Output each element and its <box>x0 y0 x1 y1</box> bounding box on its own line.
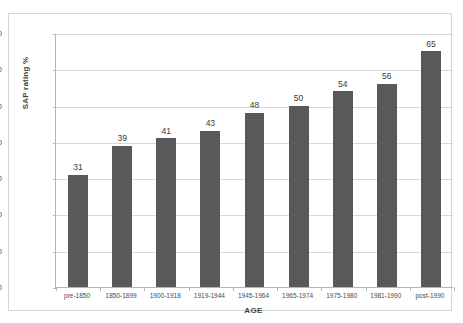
bar-slot[interactable]: 39 <box>100 34 144 287</box>
y-axis-tick-label: 10 <box>0 248 2 256</box>
x-axis-tick-mark <box>454 287 455 291</box>
bar-slot[interactable]: 54 <box>321 34 365 287</box>
bar-value-label: 41 <box>144 127 188 136</box>
x-axis-tick-mark <box>277 287 278 291</box>
x-axis-category-label: 1965-1974 <box>276 293 320 300</box>
bar-slot[interactable]: 48 <box>232 34 276 287</box>
x-axis-tick-mark <box>410 287 411 291</box>
bar-value-label: 50 <box>277 94 321 103</box>
x-axis-tick-mark <box>56 287 57 291</box>
bar-value-label: 56 <box>365 72 409 81</box>
bar-value-label: 39 <box>100 134 144 143</box>
x-axis-tick-mark <box>366 287 367 291</box>
x-axis-title: AGE <box>55 306 452 315</box>
y-axis-tick-label: 70 <box>0 30 2 38</box>
x-axis-tick-labels: pre-18501850-18991900-19181919-19441945-… <box>55 293 452 300</box>
x-axis-tick-mark <box>144 287 145 291</box>
bar-value-label: 65 <box>409 40 453 49</box>
bar-value-label: 43 <box>188 119 232 128</box>
bar-slot[interactable]: 65 <box>409 34 453 287</box>
bar-slot[interactable]: 31 <box>56 34 100 287</box>
bar-value-label: 48 <box>232 101 276 110</box>
x-axis-tick-mark <box>100 287 101 291</box>
bar-value-label: 31 <box>56 163 100 172</box>
bar-series: 313941434850545665 <box>56 34 453 287</box>
plot-area: 010203040506070 313941434850545665 <box>55 34 453 288</box>
bar-slot[interactable]: 41 <box>144 34 188 287</box>
x-axis-category-label: 1981-1990 <box>364 293 408 300</box>
x-axis-category-label: 1919-1944 <box>187 293 231 300</box>
x-axis-category-label: 1900-1918 <box>143 293 187 300</box>
bar-slot[interactable]: 50 <box>277 34 321 287</box>
bar[interactable] <box>333 91 353 287</box>
x-axis-tick-mark <box>189 287 190 291</box>
y-axis-tick-label: 20 <box>0 211 2 219</box>
x-axis-category-label: pre-1850 <box>55 293 99 300</box>
y-axis-title: SAP rating % <box>19 38 33 128</box>
y-axis-tick-label: 50 <box>0 103 2 111</box>
x-axis-category-label: 1945-1964 <box>231 293 275 300</box>
x-axis-category-label: 1850-1899 <box>99 293 143 300</box>
y-axis-tick-label: 40 <box>0 139 2 147</box>
x-axis-category-label: 1975-1980 <box>320 293 364 300</box>
y-axis-tick-label: 60 <box>0 66 2 74</box>
y-axis-tick-label: 30 <box>0 175 2 183</box>
bar-slot[interactable]: 43 <box>188 34 232 287</box>
bar[interactable] <box>245 113 265 287</box>
bar[interactable] <box>421 51 441 287</box>
bar-value-label: 54 <box>321 80 365 89</box>
bar[interactable] <box>112 146 132 288</box>
x-axis-tick-mark <box>233 287 234 291</box>
bar[interactable] <box>289 106 309 287</box>
y-axis-tick-label: 0 <box>0 284 2 292</box>
bar[interactable] <box>156 138 176 287</box>
chart-frame: SAP rating % 010203040506070 31394143485… <box>8 13 452 311</box>
bar[interactable] <box>377 84 397 287</box>
bar[interactable] <box>200 131 220 287</box>
bar-slot[interactable]: 56 <box>365 34 409 287</box>
x-axis-tick-mark <box>321 287 322 291</box>
x-axis-category-label: post-1990 <box>408 293 452 300</box>
bar[interactable] <box>68 175 88 287</box>
